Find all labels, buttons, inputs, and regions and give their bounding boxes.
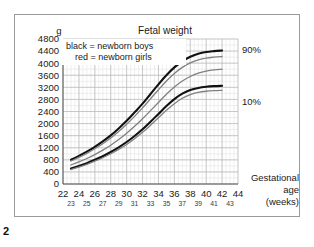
x-tick-minor-23: 23	[67, 200, 75, 207]
x-tick-32: 32	[137, 188, 148, 199]
y-tick-3200: 3200	[38, 82, 59, 93]
x-tick-42: 42	[217, 188, 228, 199]
x-tick-38: 38	[185, 188, 196, 199]
x-tick-minor-39: 39	[194, 200, 202, 207]
y-tick-4400: 4400	[38, 45, 59, 56]
legend-entry-girls: red = newborn girls	[75, 52, 152, 62]
x-tick-28: 28	[105, 188, 116, 199]
y-axis-tick-labels: 0400800120016002000240028003200360040004…	[38, 33, 59, 189]
x-tick-36: 36	[169, 188, 180, 199]
x-tick-40: 40	[201, 188, 212, 199]
y-tick-2800: 2800	[38, 94, 59, 105]
x-tick-24: 24	[74, 188, 85, 199]
percentile-90-label: 90%	[242, 44, 262, 55]
x-axis-tick-labels-minor: 2325272931333537394143	[67, 200, 234, 207]
x-axis-name-line1: Gestational	[251, 172, 299, 183]
x-tick-minor-33: 33	[147, 200, 155, 207]
legend: black = newborn boys red = newborn girls	[62, 39, 186, 65]
x-tick-minor-35: 35	[163, 200, 171, 207]
x-tick-minor-37: 37	[179, 200, 187, 207]
x-tick-minor-27: 27	[99, 200, 107, 207]
x-tick-minor-43: 43	[226, 200, 234, 207]
x-tick-34: 34	[153, 188, 164, 199]
x-tick-26: 26	[90, 188, 101, 199]
x-tick-minor-31: 31	[131, 200, 139, 207]
chart-title: Fetal weight	[138, 25, 192, 36]
x-tick-22: 22	[58, 188, 69, 199]
x-axis-name-line2: age	[283, 184, 299, 195]
fetal-weight-chart: 0400800120016002000240028003200360040004…	[15, 15, 301, 218]
percentile-10-label: 10%	[242, 96, 262, 107]
y-tick-4000: 4000	[38, 58, 59, 69]
y-tick-400: 400	[43, 166, 59, 177]
x-tick-minor-25: 25	[83, 200, 91, 207]
x-tick-30: 30	[121, 188, 132, 199]
y-tick-1200: 1200	[38, 142, 59, 153]
y-tick-2400: 2400	[38, 106, 59, 117]
y-tick-2000: 2000	[38, 118, 59, 129]
figure-frame: 0400800120016002000240028003200360040004…	[14, 14, 300, 217]
y-tick-1600: 1600	[38, 130, 59, 141]
legend-entry-boys: black = newborn boys	[66, 41, 154, 51]
y-axis-unit-label: g	[56, 25, 61, 36]
figure-number: 2	[3, 225, 9, 237]
x-tick-minor-41: 41	[210, 200, 218, 207]
x-axis-name-line3: (weeks)	[266, 196, 299, 207]
x-tick-minor-29: 29	[115, 200, 123, 207]
x-axis-tick-labels-major: 222426283032343638404244	[58, 188, 244, 199]
chart-canvas: 0400800120016002000240028003200360040004…	[15, 15, 301, 218]
y-tick-3600: 3600	[38, 70, 59, 81]
y-tick-800: 800	[43, 154, 59, 165]
x-tick-44: 44	[233, 188, 244, 199]
